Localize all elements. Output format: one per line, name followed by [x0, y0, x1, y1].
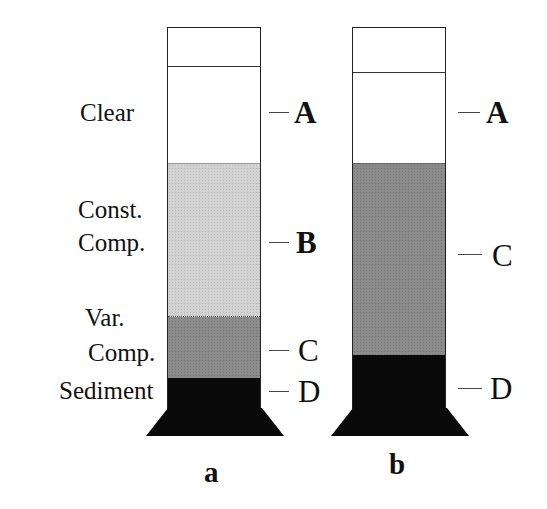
tube-a-headspace — [168, 28, 260, 67]
tube-b-tick-d — [458, 388, 482, 389]
tube-b-layer-clear — [353, 73, 445, 163]
tube-b-letter-d: D — [490, 373, 512, 404]
label-clear: Clear — [80, 100, 134, 125]
label-var-comp-line2: Comp. — [88, 340, 155, 365]
tube-a — [167, 27, 261, 415]
tube-b-tick-a — [458, 112, 480, 113]
tube-b-layer-sediment — [353, 355, 445, 416]
tube-b-layer-var-comp — [353, 163, 445, 355]
label-var-comp-line1: Var. — [85, 305, 125, 330]
tube-a-layer-const-comp — [168, 163, 260, 317]
label-const-comp-line1: Const. — [78, 197, 143, 222]
tube-a-tick-b — [269, 242, 289, 243]
tube-b-letter-c: C — [492, 240, 513, 271]
tube-a-layer-var-comp — [168, 317, 260, 378]
caption-b: b — [389, 450, 405, 479]
caption-a: a — [204, 458, 219, 487]
tube-a-letter-a: A — [294, 97, 316, 128]
label-const-comp-line2: Comp. — [78, 230, 145, 255]
tube-a-letter-c: C — [298, 335, 319, 366]
tube-b-letter-a: A — [486, 97, 508, 128]
label-sediment: Sediment — [59, 378, 153, 403]
tube-a-letter-d: D — [298, 376, 320, 407]
tube-b-tick-c — [458, 254, 482, 255]
tube-a-base — [144, 408, 286, 438]
tube-a-tick-c — [269, 350, 289, 351]
tube-a-letter-b: B — [296, 227, 317, 258]
tube-a-tick-a — [269, 112, 289, 113]
tube-b-base — [329, 408, 471, 438]
tube-a-layer-clear — [168, 67, 260, 163]
tube-b-headspace — [353, 28, 445, 73]
tube-b — [352, 27, 446, 415]
tube-a-tick-d — [269, 391, 289, 392]
